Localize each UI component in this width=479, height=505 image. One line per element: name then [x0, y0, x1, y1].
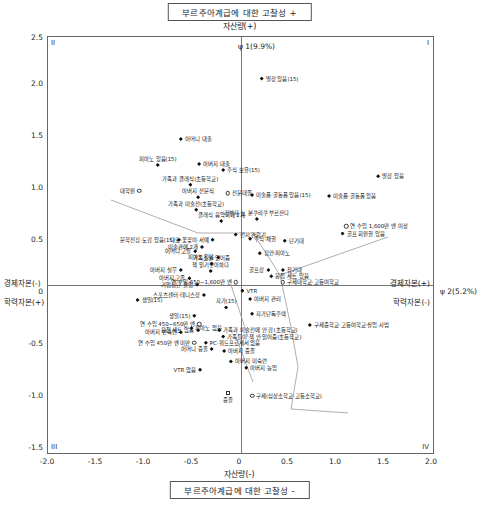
y-tick-2.5: 2.5 — [17, 33, 43, 42]
x-tick-1.0: 1.0 — [320, 457, 350, 466]
data-point-label: 아버지 실무 — [150, 267, 177, 274]
data-point-label: VTR 없음 — [174, 366, 196, 373]
data-point-label: 아버지 농업 — [250, 364, 277, 371]
data-point-label: 집안·피아노 — [264, 250, 291, 257]
data-point — [281, 280, 286, 285]
data-point-label: 아버지 관리 — [254, 296, 281, 303]
data-point — [226, 391, 230, 395]
psi1-label: ψ 1(9.9%) — [238, 42, 275, 51]
caption-left-education: 학력자본(+) — [4, 296, 44, 307]
y-tick--1.5: -1.5 — [17, 443, 43, 452]
data-point-label: 구제대학교·고등여학교 — [287, 279, 339, 286]
connector-lines — [48, 37, 433, 453]
caption-right-economic: 경제자본(+) — [390, 277, 430, 288]
caption-right-education: 학력자본(-) — [393, 296, 430, 307]
data-point-label: 아버지 중졸 — [228, 348, 255, 355]
scatter-plot-area: II I III IV 별장 있음(15)어머니 대출피아노 있음(15)아버지… — [47, 36, 434, 454]
x-tick-0.5: 0.5 — [272, 457, 302, 466]
data-point-label: 중졸 — [223, 396, 233, 403]
data-point-label: 어머니 중졸 — [181, 346, 208, 353]
x-tick--1.0: -1.0 — [128, 457, 158, 466]
data-point-label: 생일(15) — [169, 312, 190, 319]
data-point-label: 전시 관람기 — [240, 231, 267, 238]
y-tick-0: 0 — [17, 287, 43, 296]
data-point-label: 아버지 전문직 — [182, 188, 214, 195]
x-tick-0: 0 — [224, 457, 254, 466]
x-tick--0.5: -0.5 — [176, 457, 206, 466]
data-point-label: 어머니 대출 — [185, 136, 212, 143]
data-point-label: VTR — [246, 287, 257, 294]
x-tick-2.0: 2.0 — [416, 457, 446, 466]
x-tick-1.5: 1.5 — [368, 457, 398, 466]
data-point-label: 아버지 반숙련 — [145, 329, 177, 336]
data-point-label: 주식 보유(15) — [227, 167, 260, 174]
axis-caption-bottom: 자산량(-) — [224, 468, 254, 479]
data-point — [233, 280, 238, 285]
data-point-label: 다도·꽃꽂이·서예 — [170, 236, 208, 243]
data-point-label: 구제중학교·고등여학교·실업·사범 — [314, 322, 389, 329]
data-point-label: 기부자·노 분쿠라쿠 부르잔다 — [224, 210, 289, 217]
data-point-label: 단기대 — [289, 237, 304, 244]
data-point-label: 자가단독주택 — [256, 310, 286, 317]
data-point — [250, 394, 255, 399]
data-point-label: 가족소설 읽어줌 — [193, 254, 230, 261]
x-tick--1.5: -1.5 — [80, 457, 110, 466]
data-point-label: 생일(15) — [142, 297, 163, 304]
y-tick-0.5: 0.5 — [17, 235, 43, 244]
chart-bottom-title: 부르주아계급에 대한 고찰성 - — [169, 481, 309, 499]
y-tick-2.0: 2.0 — [17, 79, 43, 88]
data-point — [226, 191, 231, 196]
data-point-label: 별장 있음 — [382, 173, 404, 180]
data-point-label: 가족과 미술전(초등학교) — [168, 200, 224, 207]
data-point-label: 구제(심상소학교·고등소학교) — [256, 392, 322, 399]
data-point-label: 연 수입 650~1,600만 엔 — [171, 279, 231, 286]
data-point-label: PC·워드프로세서 없음 — [210, 339, 260, 346]
psi2-label: ψ 2(5.2%) — [440, 287, 477, 296]
data-point-label: 미술품·골동품 있음 — [333, 193, 376, 200]
axis-caption-top: 자산량(+) — [223, 20, 257, 31]
data-point-label: 연 수입 1,600만 엔 이상 — [350, 223, 407, 230]
x-tick--2.0: -2.0 — [32, 457, 62, 466]
data-point-label: 대학원 — [120, 188, 135, 195]
data-point — [344, 224, 349, 229]
data-point-label: 아버지 대출 — [203, 161, 230, 168]
caption-left-economic: 경제자본(-) — [4, 277, 41, 288]
data-point-label: 전문대졸 — [232, 190, 252, 197]
data-point-label: 문학전집·도감 있음(15) — [120, 236, 175, 243]
y-tick--1.0: -1.0 — [17, 391, 43, 400]
data-point-label: 가족과 클래식(초등학교) — [162, 175, 218, 182]
y-tick-1.0: 1.0 — [17, 183, 43, 192]
y-tick--0.5: -0.5 — [17, 339, 43, 348]
data-point-label: 별장 있음(15) — [266, 75, 299, 82]
data-point-label: 골프 회원권 있음 — [347, 230, 385, 237]
data-point-label: 골프장 — [249, 267, 264, 274]
data-point-label: 피아노 있음(15) — [139, 156, 177, 163]
data-point-label: 책 읽기좋아하다 — [192, 262, 229, 269]
data-point-label: 미술품·골동품 있음(15) — [256, 192, 311, 199]
data-point-label: 자가(15) — [216, 298, 237, 305]
data-point — [137, 189, 142, 194]
y-tick-1.5: 1.5 — [17, 131, 43, 140]
data-point — [192, 341, 197, 346]
chart-top-title: 부르주아계급에 대한 고찰성 + — [167, 3, 311, 21]
